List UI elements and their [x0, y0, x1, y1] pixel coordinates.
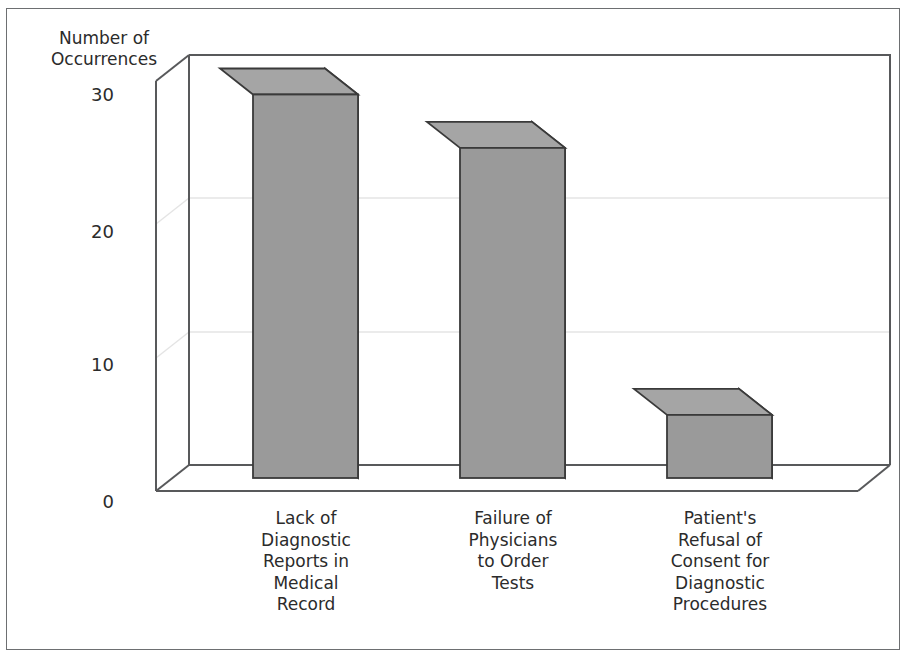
bar-3-front [667, 415, 772, 478]
x-tick-label-2: Failure of Physicians to Order Tests [428, 508, 598, 594]
x-tick-label-3: Patient's Refusal of Consent for Diagnos… [635, 508, 805, 616]
left-wall [156, 55, 189, 491]
bar-1-front [253, 95, 358, 479]
bar-2-front [460, 148, 565, 478]
x-tick-label-1: Lack of Diagnostic Reports in Medical Re… [221, 508, 391, 616]
figure: Number of Occurrences 30 20 10 0 [0, 0, 908, 656]
